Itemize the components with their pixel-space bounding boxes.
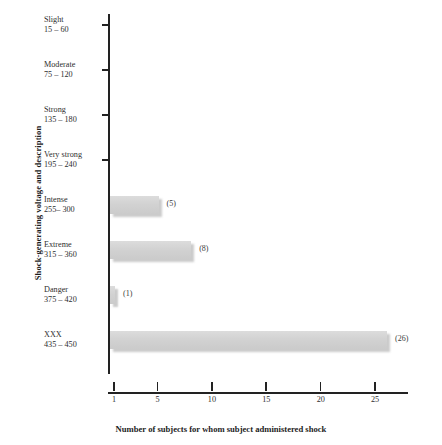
x-tick-mark: [157, 382, 159, 391]
category-voltage-range: 195 – 240: [44, 160, 106, 170]
category-label-intense: Intense255– 300: [44, 195, 106, 216]
x-tick-mark: [374, 382, 376, 391]
x-axis-title: Number of subjects for whom subject admi…: [0, 424, 442, 434]
y-axis-tick: [102, 114, 109, 116]
x-tick-mark: [211, 382, 213, 391]
category-name: Intense: [44, 195, 106, 205]
category-label-danger: Danger375 – 420: [44, 285, 106, 306]
category-label-extreme: Extreme315 – 360: [44, 240, 106, 261]
category-name: Strong: [44, 105, 106, 115]
bar-value-label: (5): [167, 199, 176, 208]
x-tick-label: 15: [262, 395, 270, 404]
bar-value-label: (8): [199, 244, 208, 253]
x-tick-label: 5: [155, 395, 159, 404]
category-voltage-range: 435 – 450: [44, 340, 106, 350]
bar-fill: [110, 241, 191, 259]
x-tick-mark: [265, 382, 267, 391]
category-voltage-range: 375 – 420: [44, 295, 106, 305]
bar-fill: [110, 331, 387, 349]
x-tick-label: 25: [371, 395, 379, 404]
bar-value-label: (1): [123, 289, 132, 298]
y-axis-tick: [102, 24, 109, 26]
category-name: Very strong: [44, 150, 106, 160]
category-voltage-range: 15 – 60: [44, 25, 106, 35]
category-name: Moderate: [44, 60, 106, 70]
x-tick-label: 10: [208, 395, 216, 404]
x-tick-mark: [320, 382, 322, 391]
category-label-moderate: Moderate75 – 120: [44, 60, 106, 81]
category-label-xxx: XXX435 – 450: [44, 330, 106, 351]
y-axis-title: Shock-generating voltage and description: [33, 88, 43, 318]
category-label-very-strong: Very strong195 – 240: [44, 150, 106, 171]
category-name: Slight: [44, 15, 106, 25]
y-axis-tick: [102, 159, 109, 161]
x-tick-label: 20: [317, 395, 325, 404]
category-label-strong: Strong135 – 180: [44, 105, 106, 126]
category-voltage-range: 135 – 180: [44, 115, 106, 125]
category-name: XXX: [44, 330, 106, 340]
category-label-column: Slight15 – 60Moderate75 – 120Strong135 –…: [44, 14, 106, 374]
category-name: Danger: [44, 285, 106, 295]
y-axis-tick: [102, 69, 109, 71]
bar-fill: [110, 196, 159, 214]
category-voltage-range: 315 – 360: [44, 250, 106, 260]
category-name: Extreme: [44, 240, 106, 250]
bar-value-label: (26): [395, 334, 408, 343]
category-label-slight: Slight15 – 60: [44, 15, 106, 36]
category-voltage-range: 255– 300: [44, 205, 106, 215]
bar-chart: Shock-generating voltage and description…: [0, 0, 442, 445]
x-tick-label: 1: [112, 395, 116, 404]
x-tick-mark: [113, 382, 115, 391]
y-axis-line: [108, 14, 110, 374]
bar-fill: [110, 286, 115, 304]
plot-area: (5)(8)(1)(26): [108, 14, 408, 374]
category-voltage-range: 75 – 120: [44, 70, 106, 80]
x-axis-ticks: 1510152025: [108, 382, 408, 412]
